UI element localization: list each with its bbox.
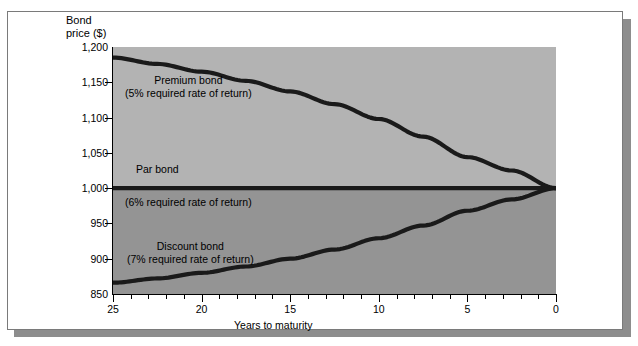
x-axis-minor-tick — [343, 295, 344, 299]
x-axis-minor-tick — [414, 295, 415, 299]
y-axis-tick-mark — [105, 118, 113, 119]
x-axis-minor-tick — [432, 295, 433, 299]
y-axis-tick-mark — [105, 223, 113, 224]
x-axis-minor-tick — [166, 295, 167, 299]
y-axis-tick-label: 1,200 — [60, 41, 108, 53]
x-axis-line — [112, 294, 557, 295]
figure-root: Bond price ($) 8509009501,0001,0501,1001… — [0, 0, 638, 346]
x-axis-minor-tick — [308, 295, 309, 299]
x-axis-tick-label: 20 — [196, 303, 208, 315]
x-axis-minor-tick — [538, 295, 539, 299]
x-axis-minor-tick — [184, 295, 185, 299]
x-axis-minor-tick — [521, 295, 522, 299]
x-axis-tick-label: 25 — [107, 303, 119, 315]
x-axis-minor-tick — [131, 295, 132, 299]
x-axis-tick-label: 15 — [284, 303, 296, 315]
annotation-premium-bond-title: Premium bond — [125, 74, 252, 87]
annotation-discount-bond-rate: (7% required rate of return) — [127, 253, 254, 266]
x-axis-minor-tick — [397, 295, 398, 299]
y-axis-tick-mark — [105, 259, 113, 260]
annotation-premium-bond: Premium bond (5% required rate of return… — [125, 74, 252, 100]
x-axis-tick-label: 10 — [373, 303, 385, 315]
y-axis-tick-label: 850 — [60, 288, 108, 300]
x-axis-major-tick — [467, 295, 468, 302]
y-axis-tick-label: 900 — [60, 253, 108, 265]
x-axis-minor-tick — [148, 295, 149, 299]
x-axis-minor-tick — [255, 295, 256, 299]
y-axis-tick-label: 950 — [60, 217, 108, 229]
x-axis-tick-label: 5 — [464, 303, 470, 315]
x-axis-title: Years to maturity — [234, 319, 312, 331]
y-axis-tick-label: 1,150 — [60, 76, 108, 88]
y-axis-tick-label: 1,100 — [60, 112, 108, 124]
annotation-discount-bond: Discount bond (7% required rate of retur… — [127, 240, 254, 266]
y-axis-tick-mark — [105, 188, 113, 189]
x-axis-minor-tick — [272, 295, 273, 299]
x-axis-major-tick — [556, 295, 557, 302]
annotation-par-bond-title: Par bond — [136, 163, 179, 176]
x-axis-major-tick — [113, 295, 114, 302]
y-axis-tick-label: 1,000 — [60, 182, 108, 194]
y-axis-title: Bond price ($) — [66, 14, 106, 40]
y-axis-tick-mark — [105, 153, 113, 154]
x-axis-minor-tick — [237, 295, 238, 299]
annotation-par-bond-rate: (6% required rate of return) — [125, 196, 252, 209]
y-axis-tick-mark — [105, 82, 113, 83]
x-axis-minor-tick — [219, 295, 220, 299]
x-axis-major-tick — [290, 295, 291, 302]
x-axis-minor-tick — [450, 295, 451, 299]
x-axis-tick-label: 0 — [553, 303, 559, 315]
x-axis-minor-tick — [361, 295, 362, 299]
y-axis-tick-label: 1,050 — [60, 147, 108, 159]
annotation-premium-bond-rate: (5% required rate of return) — [125, 87, 252, 100]
x-axis-minor-tick — [485, 295, 486, 299]
x-axis-minor-tick — [326, 295, 327, 299]
x-axis-major-tick — [379, 295, 380, 302]
annotation-discount-bond-title: Discount bond — [127, 240, 254, 253]
x-axis-minor-tick — [503, 295, 504, 299]
x-axis-major-tick — [202, 295, 203, 302]
